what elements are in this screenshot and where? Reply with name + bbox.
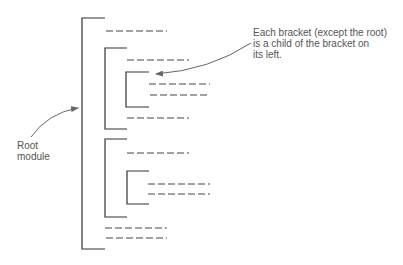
grandchild-bracket-1 bbox=[126, 72, 149, 107]
child-bracket-1 bbox=[105, 48, 127, 129]
child-bracket-annotation: Each bracket (except the root) is a chil… bbox=[253, 27, 387, 60]
annotation-line: module bbox=[17, 151, 50, 162]
annotation-line: is a child of the bracket on bbox=[253, 38, 387, 49]
grandchild-bracket-2 bbox=[127, 171, 149, 204]
root-note-arrow bbox=[31, 108, 78, 137]
child-bracket-2 bbox=[105, 139, 127, 217]
annotation-line: its left. bbox=[253, 49, 387, 60]
annotation-line: Each bracket (except the root) bbox=[253, 27, 387, 38]
root-module-label: Root module bbox=[17, 140, 50, 162]
child-note-arrow bbox=[156, 43, 251, 74]
root-bracket bbox=[82, 18, 105, 249]
annotation-line: Root bbox=[17, 140, 50, 151]
